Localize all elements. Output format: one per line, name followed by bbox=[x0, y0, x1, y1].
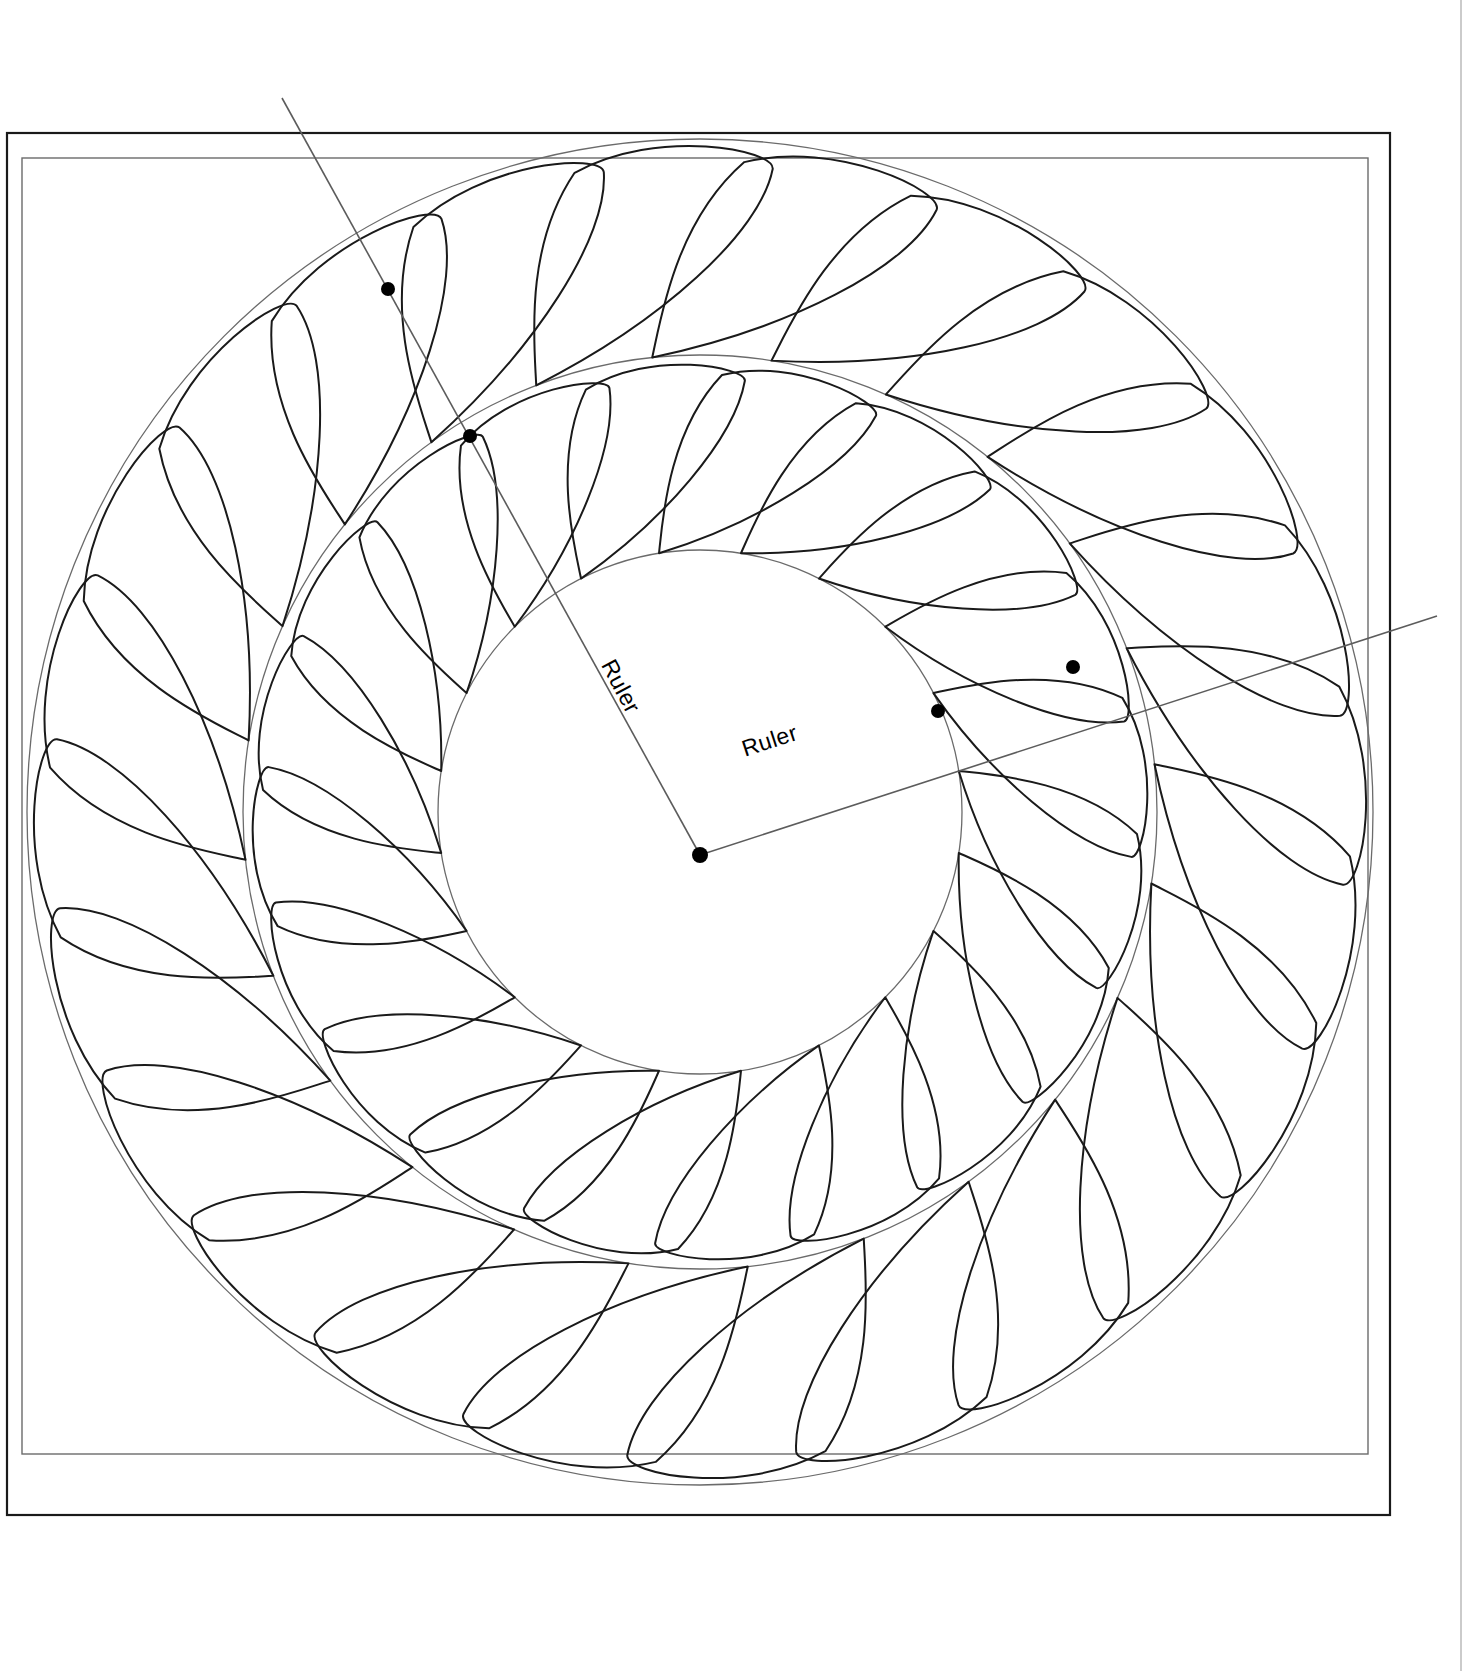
paper-background bbox=[0, 0, 1464, 1671]
ruler-marker-outer-lr[interactable] bbox=[1066, 660, 1080, 674]
center-point-marker bbox=[692, 847, 708, 863]
feather-wreath-drawing: RulerRuler bbox=[0, 0, 1464, 1671]
ruler-marker-inner-lr[interactable] bbox=[931, 704, 945, 718]
pattern-canvas: RulerRuler bbox=[0, 0, 1464, 1671]
ruler-marker-inner-ul[interactable] bbox=[463, 429, 477, 443]
ruler-marker-outer-ul[interactable] bbox=[381, 282, 395, 296]
